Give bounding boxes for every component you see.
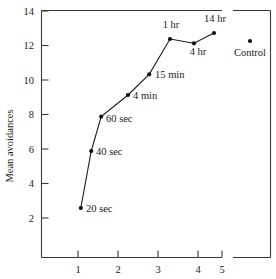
x-axis-tick-labels: 1 2 3 4 5	[75, 264, 224, 275]
y-axis-ticks	[42, 11, 49, 218]
x-tick-label-2: 2	[115, 264, 120, 275]
data-label-40-sec: 40 sec	[96, 146, 123, 157]
x-tick-label-3: 3	[155, 264, 160, 275]
data-point-1-hr	[168, 37, 172, 41]
data-point-14-hr	[212, 31, 216, 35]
y-tick-label-6: 6	[29, 144, 34, 155]
figure-container: 2 4 6 8 10 12 14 1 2 3 4 5 Mean avoidanc…	[0, 0, 276, 279]
data-markers	[79, 31, 252, 210]
y-tick-label-10: 10	[24, 75, 35, 86]
y-axis-tick-labels: 2 4 6 8 10 12 14	[24, 6, 35, 224]
data-label-4-min: 4 min	[133, 90, 158, 101]
data-point-4-min	[126, 93, 130, 97]
y-axis-title: Mean avoidances	[4, 109, 15, 182]
data-label-14-hr: 14 hr	[204, 13, 226, 24]
series-line-training-interval	[81, 33, 214, 208]
y-tick-label-8: 8	[29, 109, 34, 120]
data-label-15-min: 15 min	[155, 69, 185, 80]
x-axis-ticks	[78, 251, 222, 258]
line-chart: 2 4 6 8 10 12 14 1 2 3 4 5 Mean avoidanc…	[0, 0, 276, 279]
data-point-40-sec	[89, 149, 93, 153]
data-point-60-sec	[99, 115, 103, 119]
data-point-15-min	[147, 72, 151, 76]
y-tick-label-2: 2	[29, 213, 34, 224]
data-point-control	[248, 39, 252, 43]
data-label-1-hr: 1 hr	[163, 19, 180, 30]
data-label-20-sec: 20 sec	[86, 203, 113, 214]
y-tick-label-12: 12	[24, 40, 35, 51]
data-point-4-hr	[192, 41, 196, 45]
data-label-4-hr: 4 hr	[190, 46, 207, 57]
data-label-60-sec: 60 sec	[106, 113, 133, 124]
y-tick-label-14: 14	[24, 6, 35, 17]
data-point-labels: 20 sec 40 sec 60 sec 4 min 15 min 1 hr 4…	[86, 13, 266, 214]
x-tick-label-5: 5	[219, 264, 224, 275]
x-tick-label-1: 1	[75, 264, 80, 275]
y-tick-label-4: 4	[29, 178, 35, 189]
data-point-20-sec	[79, 206, 83, 210]
x-tick-label-4: 4	[195, 264, 201, 275]
data-label-control: Control	[234, 47, 266, 58]
